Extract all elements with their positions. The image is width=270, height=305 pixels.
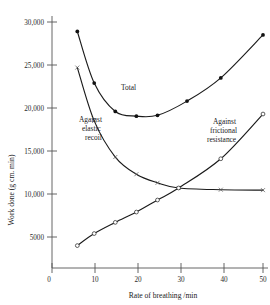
label-frictional-resistance-line1: Against xyxy=(213,117,237,126)
total-point-6 xyxy=(219,76,223,80)
frictional-resistance-point-6 xyxy=(219,157,223,161)
total-point-5 xyxy=(185,99,189,103)
frictional-resistance-point-2 xyxy=(113,220,117,224)
x-ticklabel-50: 50 xyxy=(259,276,267,284)
elastic-recoil-point-3 xyxy=(134,172,138,176)
total-point-1 xyxy=(92,81,96,85)
frictional-resistance-point-3 xyxy=(135,210,139,214)
series-total xyxy=(75,30,264,119)
y-ticklabel-15000: 15,000 xyxy=(24,148,44,156)
total-point-0 xyxy=(75,30,79,34)
x-ticklabel-40: 40 xyxy=(220,276,228,284)
total-curve xyxy=(77,31,263,116)
label-frictional-resistance-line2: frictional xyxy=(210,126,237,135)
frictional-resistance-point-5 xyxy=(177,186,181,190)
label-elastic-recoil-line2: elastic xyxy=(82,124,102,133)
x-ticklabel-10: 10 xyxy=(91,276,99,284)
y-ticklabel-30000: 30,000 xyxy=(24,19,44,27)
total-point-2 xyxy=(113,110,117,114)
label-total: Total xyxy=(121,83,136,92)
x-ticklabel-30: 30 xyxy=(177,276,185,284)
total-point-4 xyxy=(156,113,160,117)
y-ticklabel-25000: 25,000 xyxy=(24,62,44,70)
y-axis-title: Work done (g cm. min) xyxy=(7,154,16,225)
y-ticklabel-5000: 5000 xyxy=(30,234,45,242)
x-axis-title: Rate of breathing /min xyxy=(129,291,198,300)
label-elastic-recoil-line3: recoil xyxy=(85,133,102,142)
frictional-resistance-point-7 xyxy=(261,112,265,116)
frictional-resistance-point-4 xyxy=(156,198,160,202)
y-ticklabel-10000: 10,000 xyxy=(24,191,44,199)
total-point-7 xyxy=(261,33,265,37)
total-point-3 xyxy=(135,114,139,118)
x-ticklabel-0: 0 xyxy=(47,276,51,284)
work-of-breathing-chart: 30,000 25,000 20,000 15,000 10,000 5000 … xyxy=(0,0,270,305)
label-elastic-recoil-line1: Against xyxy=(79,115,103,124)
y-ticklabel-20000: 20,000 xyxy=(24,105,44,113)
chart-svg: 30,000 25,000 20,000 15,000 10,000 5000 … xyxy=(0,0,270,305)
axes: 30,000 25,000 20,000 15,000 10,000 5000 … xyxy=(24,16,268,284)
label-frictional-resistance-line3: resistance xyxy=(207,135,237,144)
elastic-recoil-point-2 xyxy=(113,155,117,159)
frictional-resistance-point-1 xyxy=(92,232,96,236)
x-ticklabel-20: 20 xyxy=(134,276,142,284)
frictional-resistance-point-0 xyxy=(75,244,79,248)
